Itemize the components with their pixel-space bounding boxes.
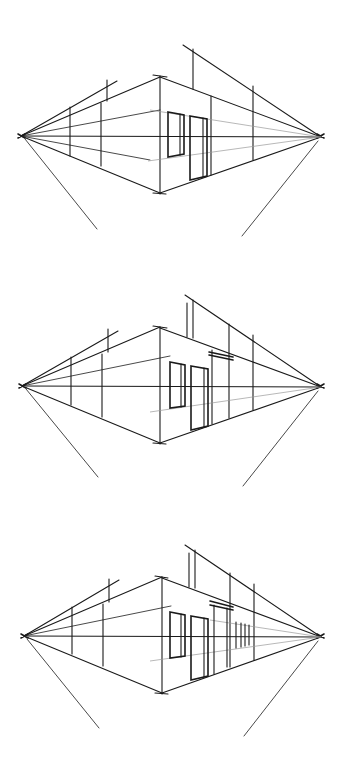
door bbox=[190, 116, 207, 180]
window bbox=[170, 362, 185, 408]
door bbox=[191, 366, 208, 430]
window bbox=[170, 612, 185, 658]
sketch-2 bbox=[19, 295, 324, 486]
horizon-line bbox=[24, 636, 321, 637]
horizon-line bbox=[22, 386, 321, 387]
sketch-3 bbox=[21, 545, 324, 736]
horizon-line bbox=[21, 136, 321, 137]
window bbox=[168, 112, 184, 157]
door bbox=[191, 616, 208, 680]
perspective-sketches bbox=[0, 0, 349, 769]
sketch-1 bbox=[18, 45, 324, 236]
